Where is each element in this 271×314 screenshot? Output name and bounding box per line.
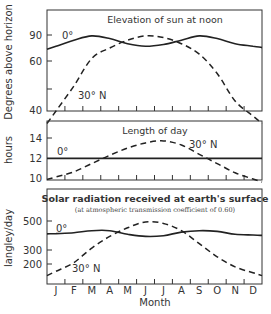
month-label: M — [87, 285, 96, 296]
month-label: D — [249, 285, 257, 296]
series-30n-label: 30° N — [72, 263, 100, 274]
series-0deg-label: 0° — [62, 30, 73, 41]
panel-radiation-ylabel: langley/day — [3, 209, 14, 267]
series-30n-label: 30° N — [189, 139, 217, 150]
series-0deg-line — [47, 230, 262, 236]
x-axis-months: JFMAMJJASOND — [53, 285, 257, 296]
month-label: M — [123, 285, 132, 296]
month-label: N — [231, 285, 238, 296]
ytick-500: 500 — [23, 216, 42, 227]
month-label: O — [213, 285, 221, 296]
month-label: J — [161, 285, 165, 296]
ytick-12: 12 — [29, 153, 42, 164]
month-label: F — [71, 285, 77, 296]
solar-chart: Elevation of sun at noon Degrees above h… — [0, 0, 271, 314]
ytick-14: 14 — [29, 133, 42, 144]
panel-elevation: Elevation of sun at noon Degrees above h… — [3, 4, 262, 123]
month-label: A — [178, 285, 185, 296]
month-label: J — [53, 285, 57, 296]
x-axis-label: Month — [139, 297, 170, 308]
month-label: J — [143, 285, 147, 296]
ytick-300: 300 — [23, 245, 42, 256]
ytick-90: 90 — [29, 30, 42, 41]
ytick-60: 60 — [29, 56, 42, 67]
panel-day-length: Length of day hours 14 12 10 0° 30° N — [3, 121, 262, 184]
panel-day-length-ylabel: hours — [3, 136, 14, 164]
panel-elevation-title: Elevation of sun at noon — [107, 14, 223, 25]
series-0deg-line — [47, 36, 262, 49]
ytick-200: 200 — [23, 259, 42, 270]
panel-radiation-title: Solar radiation received at earth's surf… — [42, 193, 269, 204]
month-label: S — [196, 285, 202, 296]
panel-day-length-title: Length of day — [122, 125, 188, 136]
series-0deg-label: 0° — [56, 223, 67, 234]
month-label: A — [106, 285, 113, 296]
panel-radiation: Solar radiation received at earth's surf… — [3, 189, 268, 284]
panel-radiation-subtitle: (at atmospheric transmission coefficient… — [75, 206, 236, 214]
ytick-10: 10 — [29, 173, 42, 184]
ytick-40: 40 — [29, 105, 42, 116]
panel-elevation-ylabel: Degrees above horizon — [3, 4, 14, 120]
series-0deg-label: 0° — [57, 146, 68, 157]
series-30n-label: 30° N — [78, 90, 106, 101]
